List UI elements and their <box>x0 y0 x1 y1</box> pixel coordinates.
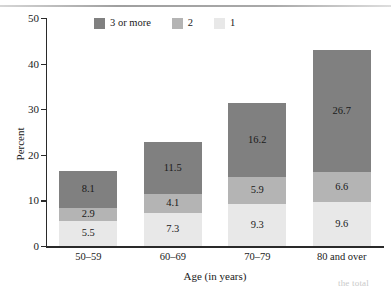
bar-segment-value: 26.7 <box>333 106 351 117</box>
bar-segment-value: 11.5 <box>164 163 182 174</box>
y-tick-mark <box>41 200 46 201</box>
bar-segment-value: 9.3 <box>251 220 264 231</box>
page-scan-rule <box>0 5 391 7</box>
bar-segment-value: 6.6 <box>335 182 348 193</box>
bar-segment: 5.9 <box>228 177 286 204</box>
bar-segment: 16.2 <box>228 103 286 177</box>
x-tick-label: 70–79 <box>244 251 270 262</box>
legend-label: 1 <box>230 18 235 29</box>
bar-segment: 26.7 <box>313 50 371 172</box>
x-tick-label: 50–59 <box>75 251 101 262</box>
bar-segment-value: 2.9 <box>82 209 95 220</box>
y-tick-label: 10 <box>28 194 39 206</box>
bar-segment: 9.3 <box>228 204 286 246</box>
y-tick-label: 20 <box>28 149 39 161</box>
y-tick-mark <box>41 246 46 247</box>
bar-segment: 11.5 <box>144 142 202 194</box>
legend-swatch-icon <box>172 18 183 29</box>
stacked-bar: 9.66.626.7 <box>313 50 371 246</box>
legend-item: 1 <box>214 18 235 29</box>
y-tick-label: 40 <box>28 58 39 70</box>
legend-item: 3 or more <box>94 18 151 29</box>
x-tick-label: 60–69 <box>160 251 186 262</box>
page-text-bleed: the total <box>0 278 391 288</box>
chart-legend: 3 or more21 <box>94 18 235 29</box>
bar-segment-value: 8.1 <box>82 184 95 195</box>
bar-segment: 6.6 <box>313 172 371 202</box>
bar-segment-value: 16.2 <box>248 135 266 146</box>
bar-segment-value: 4.1 <box>166 198 179 209</box>
bar-segment: 4.1 <box>144 194 202 213</box>
bar-segment: 2.9 <box>59 208 117 221</box>
bar-segment-value: 5.5 <box>82 228 95 239</box>
y-tick-mark <box>41 18 46 19</box>
legend-label: 2 <box>188 18 193 29</box>
bar-segment-value: 7.3 <box>166 224 179 235</box>
legend-swatch-icon <box>214 18 225 29</box>
plot-area: 01020304050 5.52.98.17.34.111.59.35.916.… <box>46 18 384 246</box>
x-axis-line <box>46 246 384 248</box>
bar-segment: 8.1 <box>59 171 117 208</box>
bar-segment: 5.5 <box>59 221 117 246</box>
legend-label: 3 or more <box>110 18 151 29</box>
y-axis-title: Percent <box>14 128 26 161</box>
bar-segment: 9.6 <box>313 202 371 246</box>
bar-segment-value: 5.9 <box>251 185 264 196</box>
y-tick-label: 50 <box>28 12 39 24</box>
y-axis-line <box>46 18 47 246</box>
legend-swatch-icon <box>94 18 105 29</box>
chart-figure: 01020304050 5.52.98.17.34.111.59.35.916.… <box>0 0 391 288</box>
bar-segment-value: 9.6 <box>335 219 348 230</box>
y-tick-mark <box>41 64 46 65</box>
y-tick-mark <box>41 155 46 156</box>
y-tick-mark <box>41 109 46 110</box>
stacked-bar: 9.35.916.2 <box>228 103 286 246</box>
y-tick-label: 30 <box>28 103 39 115</box>
bar-segment: 7.3 <box>144 213 202 246</box>
legend-item: 2 <box>172 18 193 29</box>
x-tick-label: 80 and over <box>317 251 367 262</box>
y-tick-label: 0 <box>34 240 40 252</box>
stacked-bar: 5.52.98.1 <box>59 171 117 246</box>
stacked-bar: 7.34.111.5 <box>144 142 202 246</box>
